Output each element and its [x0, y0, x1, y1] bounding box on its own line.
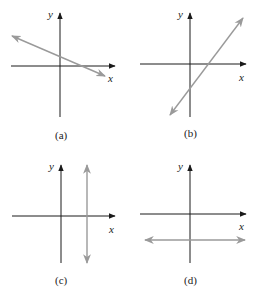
- panel-d: y x (d): [140, 160, 246, 287]
- negative-slope-line: [12, 36, 105, 76]
- panel-label: (d): [184, 274, 197, 287]
- y-axis-label: y: [177, 8, 183, 20]
- panel-b: y x (b): [140, 8, 246, 140]
- x-axis-label: x: [107, 72, 113, 84]
- panel-a: y x (a): [11, 8, 115, 142]
- positive-slope-line: [170, 18, 243, 115]
- y-axis-label: y: [177, 160, 183, 172]
- panel-label: (a): [55, 129, 68, 142]
- panel-label: (c): [55, 274, 68, 287]
- x-axis-label: x: [238, 220, 244, 232]
- y-axis-label: y: [47, 8, 53, 20]
- figure-canvas: y x (a) y x (b) y x (c) y x (d): [0, 0, 258, 293]
- y-axis-label: y: [48, 160, 54, 172]
- x-axis-label: x: [108, 223, 114, 235]
- panel-label: (b): [184, 127, 197, 140]
- x-axis-label: x: [238, 71, 244, 83]
- panel-c: y x (c): [12, 160, 115, 287]
